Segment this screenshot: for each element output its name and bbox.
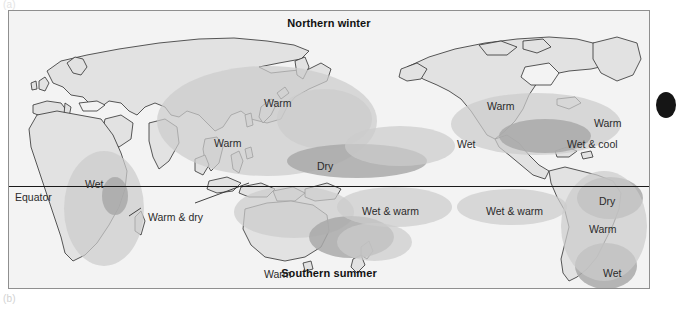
climate-label-warm-ne-america: Warm [594, 118, 622, 129]
northern-winter-title: Northern winter [287, 17, 370, 29]
equator-line [9, 186, 650, 187]
climate-label-warm-s-america: Warm [589, 224, 617, 235]
figure-panel-a-label: (a) [3, 0, 16, 10]
climate-label-wet-se-s-america: Wet [603, 268, 621, 279]
climate-label-warm-e-asia: Warm [264, 98, 292, 109]
world-climate-map: Equator Northern winter Southern summer … [8, 10, 650, 289]
climate-label-warm-australia: Warm [264, 269, 292, 280]
climate-label-dry-w-pacific: Dry [317, 161, 333, 172]
world-map-coastlines [9, 11, 649, 288]
page-edge-marker [656, 92, 676, 118]
climate-label-warm-and-dry: Warm & dry [148, 212, 203, 223]
climate-label-wet-nw-america: Wet [457, 139, 475, 150]
climate-label-wet-cool-se-usa: Wet & cool [567, 139, 618, 150]
climate-label-wet-warm-e-pac: Wet & warm [486, 206, 543, 217]
climate-label-warm-n-america: Warm [487, 101, 515, 112]
figure-panel-b-label: (b) [3, 293, 16, 304]
climate-label-wet-warm-pacific: Wet & warm [362, 206, 419, 217]
climate-label-warm-s-asia: Warm [214, 138, 242, 149]
southern-summer-title: Southern summer [281, 267, 377, 279]
climate-label-wet-africa: Wet [85, 179, 103, 190]
climate-label-dry-s-america: Dry [599, 196, 615, 207]
equator-label: Equator [15, 191, 52, 203]
